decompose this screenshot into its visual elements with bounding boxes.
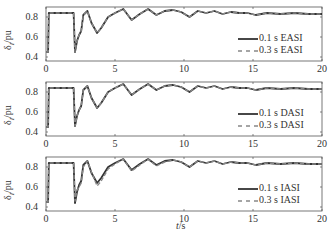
- y-tick-label: 0.6: [14, 31, 38, 42]
- x-axis-label: t/s: [176, 220, 185, 231]
- x-tick-label: 20: [312, 138, 330, 149]
- y-axis-label: δI/pu: [2, 105, 16, 125]
- legend-label: 0.3 s DASI: [259, 119, 304, 131]
- x-tick-label: 10: [174, 138, 194, 149]
- y-axis-label: δI/pu: [2, 180, 16, 200]
- legend-label: 0.1 s IASI: [259, 182, 300, 194]
- x-tick-label: 5: [105, 213, 125, 224]
- x-tick-label: 5: [105, 63, 125, 74]
- y-tick-label: 0.8: [14, 86, 38, 97]
- y-tick-label: 0.6: [14, 181, 38, 192]
- y-tick-label: 0.4: [14, 51, 38, 62]
- y-tick-label: 0.8: [14, 11, 38, 22]
- x-tick-label: 15: [243, 138, 263, 149]
- legend-label: 0.3 s IASI: [259, 194, 300, 206]
- x-tick-label: 15: [243, 213, 263, 224]
- x-tick-label: 5: [105, 138, 125, 149]
- x-tick-label: 15: [243, 63, 263, 74]
- legend-label: 0.1 s EASI: [259, 32, 303, 44]
- y-axis-label: δI/pu: [2, 30, 16, 50]
- y-tick-label: 0.4: [14, 201, 38, 212]
- x-tick-label: 20: [312, 213, 330, 224]
- y-tick-label: 0.8: [14, 161, 38, 172]
- x-tick-label: 0: [36, 138, 56, 149]
- x-tick-label: 0: [36, 63, 56, 74]
- legend-label: 0.1 s DASI: [259, 107, 304, 119]
- x-tick-label: 10: [174, 63, 194, 74]
- legend-label: 0.3 s EASI: [259, 44, 303, 56]
- x-tick-label: 20: [312, 63, 330, 74]
- y-tick-label: 0.4: [14, 126, 38, 137]
- y-tick-label: 0.6: [14, 106, 38, 117]
- x-tick-label: 0: [36, 213, 56, 224]
